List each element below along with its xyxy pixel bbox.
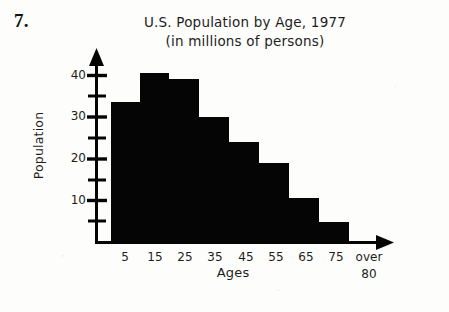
bar-age-25: [169, 79, 199, 242]
x-tick-label-45-line1: 45: [238, 250, 253, 264]
y-tick-label-30: 30: [60, 109, 86, 123]
bar-age-75: [319, 222, 349, 242]
bar-age-35: [199, 117, 229, 242]
plot-area: Population 40 30 20 10 5 15 25 35 45 55 …: [0, 0, 449, 312]
bar-age-45: [229, 142, 259, 242]
x-tick-label-55-line1: 55: [268, 250, 283, 264]
y-tick-label-10: 10: [60, 193, 86, 207]
y-axis-arrowhead: [89, 48, 104, 66]
x-tick-label-over-80-line1: over: [356, 250, 383, 264]
x-tick-label-5-line1: 5: [121, 250, 129, 264]
x-tick-label-25-line1: 25: [177, 250, 192, 264]
bar-age-65: [289, 198, 319, 242]
figure-root: 7. U.S. Population by Age, 1977 (in mill…: [0, 0, 449, 312]
bars-group: [111, 73, 349, 242]
bar-age-55: [259, 163, 289, 242]
bar-age-5: [111, 102, 140, 242]
y-axis-title: Population: [31, 91, 46, 201]
x-axis-title: Ages: [188, 265, 278, 280]
y-tick-label-20: 20: [60, 151, 86, 165]
bar-age-15: [140, 73, 169, 242]
x-tick-label-over-80-line2: 80: [349, 266, 389, 283]
y-tick-label-40: 40: [60, 68, 86, 82]
x-tick-label-35-line1: 35: [207, 250, 222, 264]
x-tick-label-15-line1: 15: [147, 250, 162, 264]
x-tick-label-over-80: over 80: [349, 249, 389, 284]
x-tick-label-65-line1: 65: [298, 250, 313, 264]
x-axis-arrowhead: [376, 235, 394, 250]
x-tick-label-75-line1: 75: [328, 250, 343, 264]
